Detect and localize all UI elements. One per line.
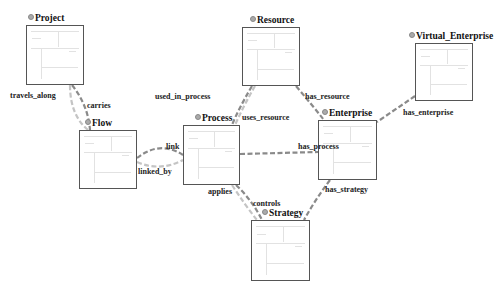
class-icon	[195, 114, 201, 120]
edge-label-carries: carries	[87, 101, 111, 110]
edge-label-has_enterprise: has_enterprise	[403, 108, 453, 117]
ontology-diagram: ProjectFlowProcessResourceEnterpriseStra…	[0, 0, 503, 288]
node-label-process: Process	[195, 113, 232, 123]
node-flow[interactable]	[79, 130, 137, 189]
node-process[interactable]	[183, 125, 240, 185]
edge-label-used_in_process: used_in_process	[155, 92, 210, 101]
node-label-strategy: Strategy	[262, 208, 303, 218]
node-title: Project	[35, 13, 64, 23]
node-title: Strategy	[269, 208, 303, 218]
node-title: Process	[202, 113, 232, 123]
class-icon	[28, 14, 34, 20]
node-thumbnail	[419, 47, 469, 97]
class-icon	[322, 109, 328, 115]
edge-label-has_process: has_process	[298, 142, 339, 151]
node-title: Resource	[257, 15, 294, 25]
node-title: Virtual_Enterprise	[416, 31, 493, 41]
edge-label-travels_along: travels_along	[10, 91, 56, 100]
node-virtual_enterprise[interactable]	[415, 43, 473, 101]
edge-label-linked_by: linked_by	[138, 167, 172, 176]
edge-label-applies: applies	[208, 187, 232, 196]
class-icon	[262, 209, 268, 215]
node-thumbnail	[246, 31, 296, 82]
edge-label-has_resource: has_resource	[305, 92, 350, 101]
edge-has_process[interactable]	[240, 152, 318, 154]
node-label-enterprise: Enterprise	[322, 108, 372, 118]
edge-label-link: link	[166, 142, 179, 151]
edge-linked_by[interactable]	[137, 160, 183, 167]
node-project[interactable]	[26, 25, 84, 85]
edge-label-uses_resource: uses_resource	[242, 113, 289, 122]
node-resource[interactable]	[242, 27, 300, 86]
node-thumbnail	[83, 134, 133, 185]
node-label-resource: Resource	[250, 15, 294, 25]
class-icon	[85, 119, 91, 125]
node-thumbnail	[255, 224, 306, 277]
node-thumbnail	[187, 129, 236, 181]
node-title: Flow	[92, 118, 112, 128]
edge-label-controls: controls	[253, 199, 280, 208]
node-label-virtual_enterprise: Virtual_Enterprise	[409, 31, 493, 41]
node-thumbnail	[30, 29, 80, 81]
node-label-flow: Flow	[85, 118, 112, 128]
edge-label-has_strategy: has_strategy	[325, 185, 368, 194]
class-icon	[409, 32, 415, 38]
node-label-project: Project	[28, 13, 64, 23]
class-icon	[250, 16, 256, 22]
node-strategy[interactable]	[251, 220, 310, 281]
node-title: Enterprise	[329, 108, 372, 118]
